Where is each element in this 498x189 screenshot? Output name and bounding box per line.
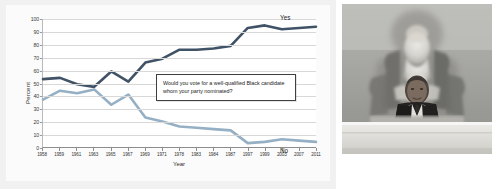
y-axis-tick-mark — [40, 135, 42, 136]
y-axis-tick-label: 0 — [36, 145, 39, 151]
x-axis-tick-mark — [299, 148, 300, 151]
x-axis-tick-label: 1971 — [157, 152, 167, 157]
grid-line — [43, 32, 316, 33]
x-axis-tick-mark — [42, 148, 43, 151]
y-axis-tick-label: 90 — [33, 29, 39, 35]
x-axis-tick-mark — [145, 148, 146, 151]
y-axis-tick-label: 10 — [33, 132, 39, 138]
x-axis-tick-mark — [196, 148, 197, 151]
x-axis-tick-label: 1978 — [174, 152, 184, 157]
x-axis-tick-label: 1963 — [89, 152, 99, 157]
x-axis-tick-mark — [248, 148, 249, 151]
question-annotation: Would you vote for a well-qualified Blac… — [156, 74, 296, 101]
x-axis-tick-label: 1958 — [37, 152, 47, 157]
y-axis-tick-mark — [40, 109, 42, 110]
x-axis-tick-mark — [162, 148, 163, 151]
x-axis-tick-label: 1965 — [106, 152, 116, 157]
x-axis-tick-label: 1967 — [123, 152, 133, 157]
x-axis-tick-mark — [128, 148, 129, 151]
series-label-yes: Yes — [280, 14, 290, 21]
y-axis-title: Percent — [25, 82, 31, 104]
y-axis-tick-label: 100 — [31, 16, 39, 22]
x-axis-tick-mark — [93, 148, 94, 151]
y-axis-tick-mark — [40, 96, 42, 97]
y-axis-tick-mark — [40, 32, 42, 33]
x-axis-tick-mark — [316, 148, 317, 151]
grid-line — [43, 122, 316, 123]
grid-line — [43, 45, 316, 46]
x-axis-tick-label: 2011 — [311, 152, 320, 157]
x-axis-tick-label: 1997 — [243, 152, 253, 157]
y-axis-tick-mark — [40, 45, 42, 46]
y-axis-tick-label: 60 — [33, 68, 39, 74]
series-label-no: No — [280, 147, 288, 154]
x-axis-tick-mark — [213, 148, 214, 151]
y-axis-tick-label: 30 — [33, 106, 39, 112]
grid-line — [43, 71, 316, 72]
x-axis-title: Year — [173, 161, 185, 167]
x-axis-tick-label: 2007 — [294, 152, 304, 157]
y-axis-tick-mark — [40, 84, 42, 85]
photo-panel — [340, 1, 497, 187]
y-axis-tick-label: 80 — [33, 42, 39, 48]
chart-canvas: Percent 0102030405060708090100 195819591… — [6, 5, 330, 181]
x-axis-tick-mark — [230, 148, 231, 151]
x-axis-tick-mark — [76, 148, 77, 151]
x-axis-tick-label: 1999 — [260, 152, 270, 157]
y-axis-tick-mark — [40, 122, 42, 123]
figure-root: Percent 0102030405060708090100 195819591… — [0, 0, 498, 189]
y-axis-tick-label: 20 — [33, 119, 39, 125]
y-axis-tick-mark — [40, 71, 42, 72]
photograph — [342, 4, 492, 154]
y-axis-tick-mark — [40, 19, 42, 20]
y-axis-tick-label: 50 — [33, 81, 39, 87]
x-axis-tick-label: 1984 — [208, 152, 218, 157]
grid-line — [43, 109, 316, 110]
x-axis-tick-mark — [111, 148, 112, 151]
x-axis-tick-label: 1987 — [226, 152, 236, 157]
x-axis-tick-label: 1961 — [71, 152, 81, 157]
x-axis-tick-mark — [265, 148, 266, 151]
x-axis-tick-label: 1959 — [54, 152, 64, 157]
grid-line — [43, 19, 316, 20]
x-axis-tick-mark — [59, 148, 60, 151]
x-axis-tick-label: 1983 — [191, 152, 201, 157]
chart-panel: Percent 0102030405060708090100 195819591… — [0, 0, 336, 189]
grid-line — [43, 58, 316, 59]
grid-line — [43, 135, 316, 136]
y-axis-tick-label: 40 — [33, 93, 39, 99]
y-axis-tick-label: 70 — [33, 55, 39, 61]
x-axis-tick-mark — [179, 148, 180, 151]
photo-graphic — [342, 4, 492, 154]
x-axis-tick-label: 1969 — [140, 152, 150, 157]
y-axis-tick-mark — [40, 58, 42, 59]
